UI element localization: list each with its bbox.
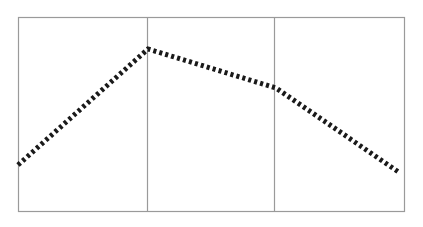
chart-container [0,0,423,227]
chart-background [0,0,423,227]
line-chart [0,0,423,227]
